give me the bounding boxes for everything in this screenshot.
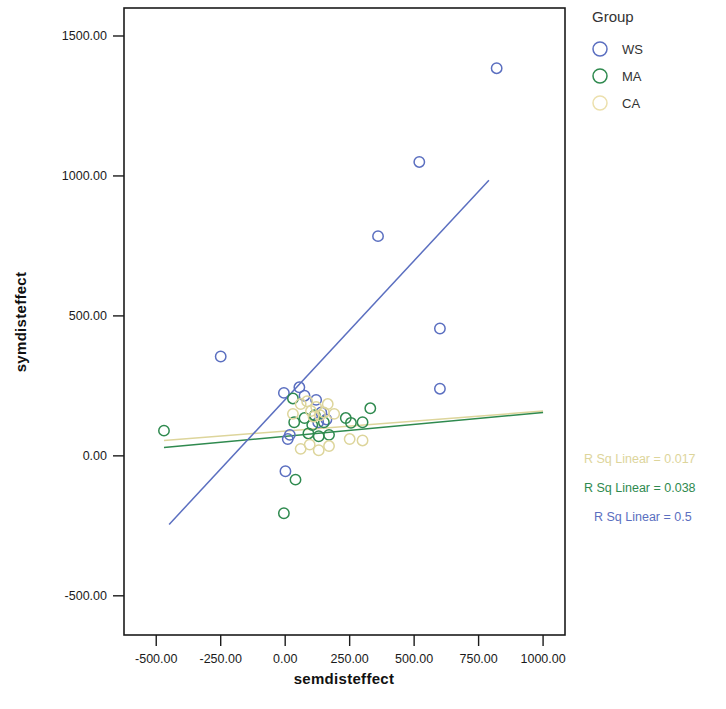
r-squared-ma: R Sq Linear = 0.038 (584, 481, 696, 495)
y-tick-label: 0.00 (83, 449, 107, 463)
scatter-point-ca (329, 409, 339, 419)
scatter-point-ma (290, 474, 300, 484)
y-tick-label: 1000.00 (62, 169, 107, 183)
scatter-point-ma (279, 508, 289, 518)
x-tick-label: 500.00 (395, 652, 433, 666)
scatter-point-ca (324, 441, 334, 451)
scatter-point-ws (373, 231, 383, 241)
x-tick-label: -500.00 (135, 652, 177, 666)
scatter-point-ws (280, 466, 290, 476)
x-tick-label: 250.00 (331, 652, 369, 666)
scatter-markers (159, 63, 502, 518)
scatter-point-ws (414, 157, 424, 167)
x-axis-ticks: -500.00-250.000.00250.00500.00750.001000… (135, 635, 566, 666)
legend-marker-ca (593, 96, 607, 110)
y-axis-title: symdisteffect (12, 272, 29, 373)
r-squared-annotations: R Sq Linear = 0.017R Sq Linear = 0.038R … (584, 452, 696, 524)
scatter-point-ca (357, 435, 367, 445)
x-axis-title: semdisteffect (294, 670, 395, 687)
scatter-plot-figure: -500.00-250.000.00250.00500.00750.001000… (0, 0, 726, 709)
y-tick-label: 1500.00 (62, 29, 107, 43)
scatter-point-ma (365, 403, 375, 413)
x-tick-label: -250.00 (200, 652, 242, 666)
regression-lines (164, 180, 543, 524)
r-squared-ca: R Sq Linear = 0.017 (584, 452, 696, 466)
legend-entries: WSMACA (593, 42, 643, 111)
scatter-point-ma (324, 430, 334, 440)
x-tick-label: 750.00 (459, 652, 497, 666)
scatter-point-ca (323, 399, 333, 409)
plot-canvas: -500.00-250.000.00250.00500.00750.001000… (0, 0, 726, 709)
y-tick-label: -500.00 (65, 589, 107, 603)
scatter-point-ma (159, 425, 169, 435)
x-tick-label: 0.00 (273, 652, 297, 666)
scatter-point-ca (295, 399, 305, 409)
legend-label-ws: WS (622, 42, 643, 57)
legend-label-ma: MA (622, 69, 642, 84)
legend: Group WSMACA (592, 8, 643, 111)
x-tick-label: 1000.00 (520, 652, 565, 666)
legend-label-ca: CA (622, 96, 640, 111)
y-axis-ticks: 1500.001000.00500.000.00-500.00 (62, 29, 124, 603)
legend-title: Group (592, 8, 634, 25)
scatter-point-ws (435, 323, 445, 333)
scatter-point-ma (357, 417, 367, 427)
scatter-point-ws (491, 63, 501, 73)
legend-marker-ma (593, 69, 607, 83)
scatter-point-ca (314, 445, 324, 455)
scatter-point-ws (435, 383, 445, 393)
r-squared-ws: R Sq Linear = 0.5 (594, 510, 692, 524)
scatter-point-ws (216, 351, 226, 361)
y-tick-label: 500.00 (69, 309, 107, 323)
legend-marker-ws (593, 42, 607, 56)
scatter-point-ca (344, 434, 354, 444)
plot-frame (124, 8, 565, 635)
